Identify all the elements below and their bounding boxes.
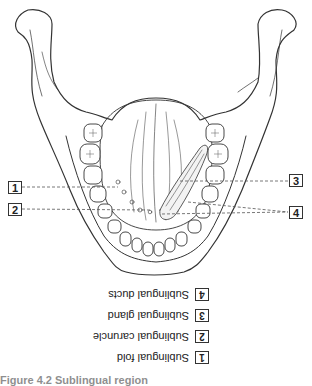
legend-item-3: 3 Sublingual gland [0, 307, 312, 323]
leader-line-4b [162, 212, 288, 214]
legend-number: 2 [195, 330, 209, 343]
legend-number: 3 [195, 309, 209, 322]
legend-label: Sublingual ducts [108, 289, 189, 301]
callout-4: 4 [289, 206, 303, 219]
legend-label: Sublingual caruncle [93, 331, 189, 343]
mandible-outline [16, 10, 296, 275]
leader-line-2 [22, 209, 150, 210]
legend-label: Sublingual gland [108, 310, 189, 322]
legend-item-4: 4 Sublingual ducts [0, 286, 312, 302]
legend-item-2: 2 Sublingual caruncle [0, 328, 312, 344]
legend-item-1: 1 Sublingual fold [0, 349, 312, 365]
callout-2: 2 [8, 203, 22, 216]
callout-3: 3 [289, 174, 303, 187]
legend-number: 1 [195, 351, 209, 364]
figure-caption: Figure 4.2 Sublingual region [0, 374, 148, 386]
callout-1: 1 [8, 181, 22, 194]
legend-number: 4 [195, 288, 209, 301]
legend-label: Sublingual fold [117, 352, 189, 364]
